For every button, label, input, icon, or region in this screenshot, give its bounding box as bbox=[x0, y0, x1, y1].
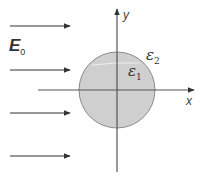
field-label-e0: E0 bbox=[9, 36, 25, 57]
epsilon-1-label: ε1 bbox=[128, 62, 142, 82]
y-axis-label: y bbox=[123, 8, 129, 22]
x-axis-label: x bbox=[186, 94, 192, 108]
dielectric-sphere-diagram bbox=[0, 0, 206, 176]
epsilon-2-label: ε2 bbox=[146, 46, 160, 66]
